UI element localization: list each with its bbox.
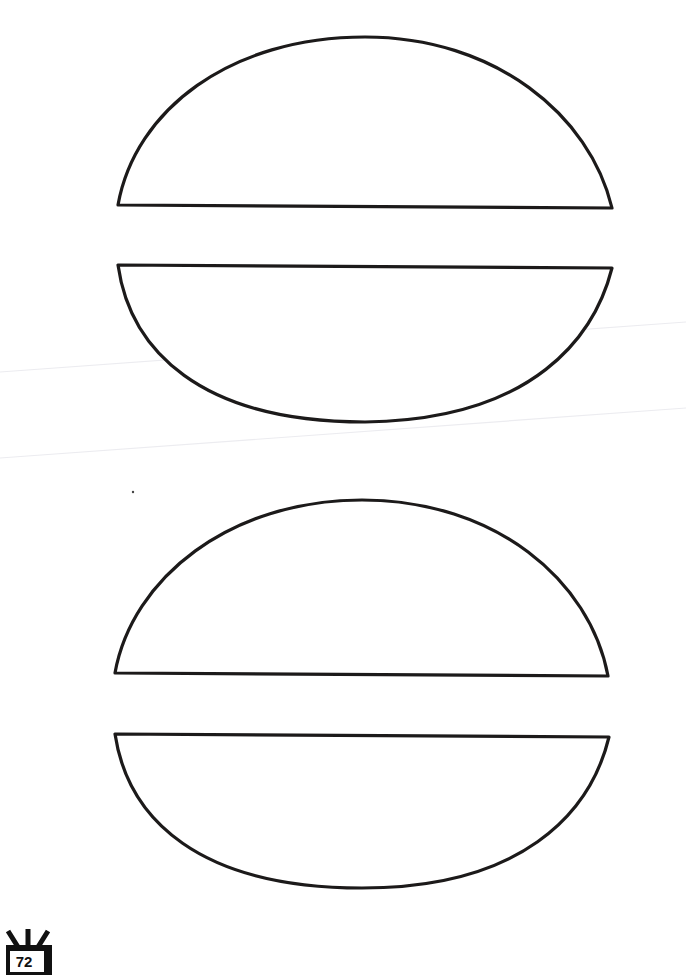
scan-speck [132,491,134,493]
burger-bottom-bun-2 [115,734,609,888]
template-sheet [0,0,686,978]
burger-bottom-bun-1 [118,265,612,422]
burger-top-bun-1 [118,37,612,208]
page-number: 72 [8,952,40,972]
burger-top-bun-2 [115,500,608,676]
